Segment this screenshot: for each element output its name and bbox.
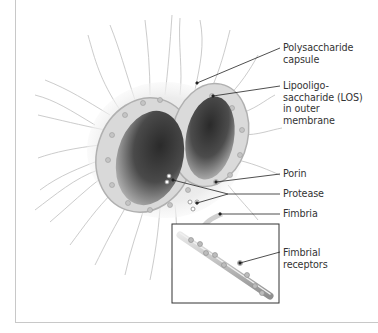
leader-capsule xyxy=(197,48,280,83)
label-fimbrial-receptors: Fimbrial receptors xyxy=(283,247,328,270)
label-polysaccharide-capsule: Polysaccharide capsule xyxy=(283,42,353,65)
label-lipooligosaccharide: Lipooligo- saccharide (LOS) in outer mem… xyxy=(283,80,363,126)
label-porin: Porin xyxy=(283,168,307,180)
label-fimbria: Fimbria xyxy=(283,208,318,220)
label-protease: Protease xyxy=(283,188,324,200)
